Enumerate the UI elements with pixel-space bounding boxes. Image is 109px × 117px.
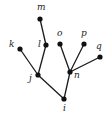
node-label-o: o — [57, 28, 63, 38]
node-m — [37, 16, 42, 21]
node-label-k: k — [9, 39, 14, 49]
node-label-i: i — [63, 103, 66, 113]
node-label-l: l — [38, 39, 41, 49]
edge-j-l — [38, 45, 46, 75]
node-q — [97, 54, 102, 59]
edge-i-j — [38, 75, 64, 99]
node-o — [57, 41, 62, 46]
node-l — [43, 42, 48, 47]
node-k — [17, 46, 22, 51]
node-label-p: p — [81, 28, 87, 38]
node-label-m: m — [37, 2, 46, 12]
node-label-q: q — [96, 41, 102, 51]
node-p — [81, 41, 86, 46]
edge-j-k — [20, 49, 38, 75]
node-label-j: j — [27, 73, 32, 83]
node-i — [61, 96, 66, 101]
edge-i-n — [64, 72, 70, 99]
edge-l-m — [40, 19, 46, 45]
node-j — [35, 72, 40, 77]
node-label-n: n — [74, 70, 80, 80]
edge-n-o — [60, 44, 70, 72]
tree-diagram: ijnklmopq — [0, 0, 109, 117]
tree-labels: ijnklmopq — [9, 2, 102, 113]
node-n — [67, 69, 72, 74]
